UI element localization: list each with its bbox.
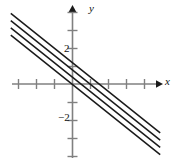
plot-line-4 xyxy=(11,35,160,155)
x-axis-arrowhead xyxy=(156,80,163,88)
y-axis-label: y xyxy=(89,3,94,14)
y-tick-label-2: 2 xyxy=(64,43,70,54)
plot-line-3 xyxy=(11,28,160,148)
x-axis-label: x xyxy=(165,76,170,87)
y-axis-arrowhead xyxy=(69,5,77,12)
graph-figure: y x 2 −2 xyxy=(0,0,176,162)
plot-line-1 xyxy=(11,13,160,133)
plot-line-2 xyxy=(11,21,160,141)
coordinate-plane-svg xyxy=(0,0,176,162)
y-tick-label-minus-2: −2 xyxy=(58,112,70,123)
